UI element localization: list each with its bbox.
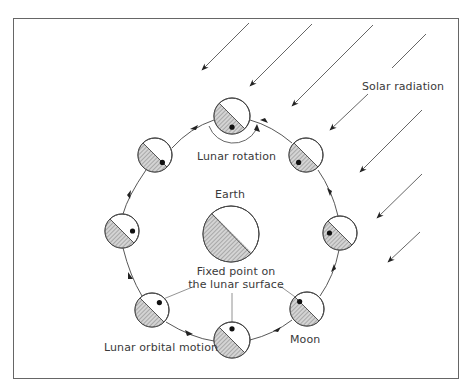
fixed-point-label: Fixed point on the lunar surface: [186, 265, 286, 291]
moon-upper-right-icon: [287, 138, 323, 174]
solar-ray-icon: [250, 24, 312, 86]
moon-upper-left-icon: [136, 138, 172, 174]
moon-right-icon: [321, 216, 357, 252]
fixed-point-dot-icon: [160, 160, 165, 165]
fixed-point-dot-icon: [229, 326, 234, 331]
fixed-point-dot-icon: [229, 125, 234, 130]
solar-radiation-label: Solar radiation: [362, 80, 444, 93]
solar-ray-icon: [392, 34, 426, 68]
moon-lower-left-icon: [133, 293, 169, 329]
lunar-orbital-motion-label: Lunar orbital motion: [104, 341, 218, 354]
moon-label: Moon: [290, 333, 320, 346]
solar-ray-icon: [388, 232, 420, 262]
solar-ray-icon: [202, 23, 249, 70]
lunar-rotation-label: Lunar rotation: [197, 150, 276, 163]
fixed-point-dot-icon: [297, 299, 302, 304]
arrow-icon: [260, 118, 268, 123]
solar-ray-icon: [377, 174, 422, 218]
moon-left-icon: [103, 214, 139, 250]
moon-top-icon: [212, 98, 250, 136]
arrow-icon: [127, 190, 131, 199]
fixed-point-label-line2: the lunar surface: [186, 278, 286, 291]
solar-ray-icon: [292, 25, 373, 106]
arrow-icon: [190, 125, 198, 130]
fixed-point-label-line1: Fixed point on: [186, 265, 286, 278]
solar-ray-icon: [360, 110, 422, 172]
fixed-point-dot-icon: [157, 300, 162, 305]
fixed-point-dot-icon: [130, 228, 135, 233]
fixed-point-dot-icon: [327, 230, 332, 235]
solar-ray-icon: [330, 94, 368, 130]
earth-label: Earth: [215, 188, 245, 201]
fixed-point-dot-icon: [296, 160, 301, 165]
rotation-arrow-icon: [254, 124, 260, 132]
moon-lower-right-icon: [288, 292, 324, 328]
earth-icon: [200, 206, 259, 270]
